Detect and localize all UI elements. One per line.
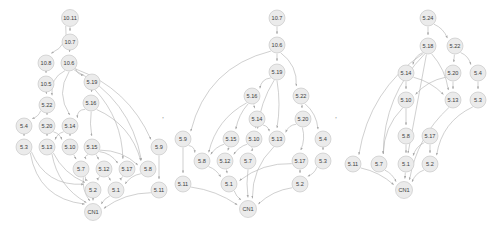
node-circle [140,161,156,177]
node-circle [62,118,78,134]
graph-edge [228,147,229,150]
node-circle [398,65,414,81]
node-circle [315,131,331,147]
graph-node[interactable]: 5.19 [84,74,100,90]
node-circle [396,182,413,199]
graph-node[interactable]: 5.19 [269,64,285,80]
graph-node[interactable]: 10.5 [38,76,54,92]
graph-node[interactable]: 5.20 [445,65,461,81]
graph-node[interactable]: 5.4 [315,131,331,147]
graph-node[interactable]: 5.1 [221,176,237,192]
graph-node[interactable]: 5.13 [445,92,461,108]
graph-node[interactable]: 5.13 [39,139,55,155]
node-circle [62,10,79,27]
graph-node[interactable]: 5.7 [371,156,387,172]
graph-node[interactable]: 5.15 [84,139,100,155]
graph-node[interactable]: 5.9 [151,139,167,155]
graph-node[interactable]: CN1 [240,201,257,218]
graph-edge [108,176,110,180]
node-circle [62,34,78,50]
graph-node[interactable]: 5.10 [398,92,414,108]
graph-node[interactable]: 5.1 [108,182,124,198]
node-circle [244,88,260,104]
graph-node[interactable]: 5.12 [217,153,233,169]
graph-node[interactable]: 5.4 [16,118,32,134]
graph-node[interactable]: CN1 [396,182,413,199]
node-circle [73,161,89,177]
node-circle [295,111,311,127]
graph-node[interactable]: 5.24 [420,10,436,26]
node-circle [269,131,285,147]
graph-node[interactable]: 5.7 [73,161,89,177]
graph-node[interactable]: 5.9 [175,131,191,147]
graph-node[interactable]: 5.2 [292,176,308,192]
graph-node[interactable]: 5.8 [194,153,210,169]
graph-node[interactable]: 10.7 [62,34,78,50]
graph-edge [226,169,227,173]
graph-node[interactable]: CN1 [85,204,102,221]
graph-node[interactable]: 5.12 [96,161,112,177]
graph-node[interactable]: 10.7 [269,10,285,26]
graph-node[interactable]: 5.1 [398,156,414,172]
graph-canvas: 10.1110.710.810.610.55.195.225.165.45.20… [0,0,503,229]
graph-node[interactable]: 5.10 [246,131,262,147]
graph-node[interactable]: 5.2 [85,182,101,198]
graph-node[interactable]: 5.3 [470,92,486,108]
node-circle [240,201,257,218]
graph-node[interactable]: 5.11 [151,182,167,198]
graph-node[interactable]: 5.20 [39,118,55,134]
graph-node[interactable]: 10.8 [38,55,54,71]
graph-node[interactable]: 5.20 [295,111,311,127]
graph-node[interactable]: 5.10 [62,139,78,155]
graph-node[interactable]: 5.11 [175,176,191,192]
graph-node[interactable]: 5.22 [39,97,55,113]
graph-node[interactable]: 5.14 [62,118,78,134]
node-circle [293,88,309,104]
graph-node[interactable]: 10.11 [62,10,79,27]
node-circle [84,74,100,90]
graph-node[interactable]: 5.16 [83,95,99,111]
graph-node[interactable]: 5.4 [470,65,486,81]
node-circle [39,139,55,155]
node-circle [151,182,167,198]
graph-node[interactable]: 5.17 [292,153,308,169]
graph-separator-comma: , [335,111,337,120]
node-circle [398,156,414,172]
graph-node[interactable]: 5.17 [422,128,438,144]
graph-edge [236,104,248,129]
graph-node[interactable]: 5.15 [223,131,239,147]
node-circle [345,156,361,172]
graph-node[interactable]: 5.14 [398,65,414,81]
graph-node[interactable]: 5.3 [16,139,32,155]
graph-node[interactable]: 5.22 [293,88,309,104]
graph-node[interactable]: 5.14 [249,111,265,127]
graph-edge [211,144,224,154]
graph-node[interactable]: 5.3 [315,153,331,169]
node-circle [61,55,77,71]
node-circle [16,118,32,134]
graph-node[interactable]: 5.2 [422,156,438,172]
graph-node[interactable]: 5.8 [398,128,414,144]
graph-node[interactable]: 5.13 [269,131,285,147]
node-circle [445,92,461,108]
node-circle [83,95,99,111]
node-circle [194,153,210,169]
graph-node[interactable]: 5.18 [420,38,436,54]
node-circle [422,156,438,172]
graph-node[interactable]: 5.22 [447,38,463,54]
graph-node[interactable]: 5.7 [240,153,256,169]
graph-node[interactable]: 5.17 [119,161,135,177]
node-circle [249,111,265,127]
graph-node[interactable]: 5.16 [244,88,260,104]
node-circle [315,153,331,169]
graph-node[interactable]: 5.8 [140,161,156,177]
node-circle [292,176,308,192]
graph-node[interactable]: 10.6 [61,55,77,71]
node-circle [85,204,102,221]
graph-edge [254,104,255,108]
graph-edge [301,128,304,150]
graph-node[interactable]: 5.11 [345,156,361,172]
node-circle [39,118,55,134]
node-circle [292,153,308,169]
graph-node[interactable]: 10.6 [269,37,285,53]
